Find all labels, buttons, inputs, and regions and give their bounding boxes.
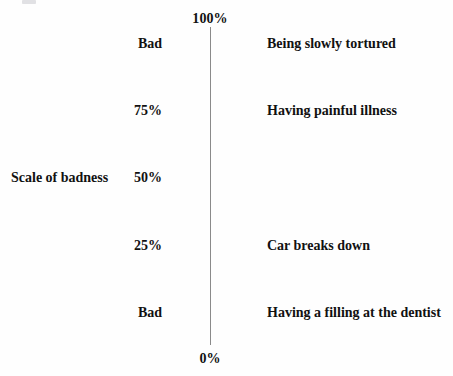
- scan-artifact: [22, 0, 36, 4]
- scale-tick-label: Bad: [0, 305, 162, 320]
- scale-row: 75%Having painful illness: [0, 103, 453, 118]
- axis-top-label: 100%: [192, 12, 227, 26]
- scale-tick-label: Bad: [0, 36, 162, 51]
- scale-tick-label: 75%: [0, 103, 162, 118]
- scale-anchor-label: Car breaks down: [267, 238, 370, 253]
- badness-scale-figure: 100% 0% BadBeing slowly tortured75%Havin…: [0, 0, 453, 376]
- vertical-scale-axis: [210, 27, 211, 345]
- scale-tick-label: 50%: [0, 170, 162, 185]
- scale-anchor-label: Having painful illness: [267, 103, 397, 118]
- scale-row: Scale of badness50%: [0, 170, 453, 185]
- scale-anchor-label: Having a filling at the dentist: [267, 305, 441, 320]
- scale-anchor-label: Being slowly tortured: [267, 36, 396, 51]
- scale-tick-label: 25%: [0, 238, 162, 253]
- axis-bottom-label: 0%: [199, 352, 220, 366]
- scale-row: BadHaving a filling at the dentist: [0, 305, 453, 320]
- scale-row: 25%Car breaks down: [0, 238, 453, 253]
- scale-row: BadBeing slowly tortured: [0, 36, 453, 51]
